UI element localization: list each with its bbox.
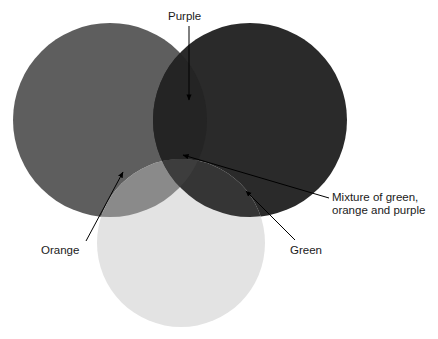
label-orange: Orange xyxy=(41,244,79,256)
label-mixture-line1: Mixture of green, xyxy=(332,191,418,203)
label-mixture-line2: orange and purple xyxy=(332,204,425,216)
venn-diagram-canvas: Purple Orange Green Mixture of green, or… xyxy=(0,0,438,339)
label-purple: Purple xyxy=(168,10,201,22)
venn-diagram-svg: Purple Orange Green Mixture of green, or… xyxy=(0,0,438,339)
label-green: Green xyxy=(290,244,322,256)
